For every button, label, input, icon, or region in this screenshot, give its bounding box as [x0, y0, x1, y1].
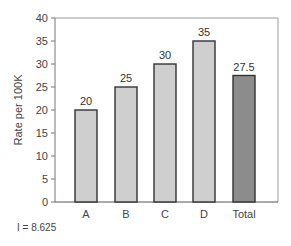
y-tick-label: 10: [36, 150, 48, 162]
bar-d: [193, 41, 215, 202]
bar-chart: 0510152025303540Rate per 100K20A25B30C35…: [0, 0, 291, 246]
y-axis-label: Rate per 100K: [12, 74, 24, 146]
y-tick-label: 15: [36, 127, 48, 139]
x-tick-label: C: [161, 208, 169, 220]
y-tick-label: 35: [36, 35, 48, 47]
data-label: 35: [198, 26, 210, 38]
data-label: 27.5: [233, 61, 254, 73]
data-label: 25: [120, 72, 132, 84]
bar-a: [75, 110, 97, 202]
y-tick-label: 40: [36, 12, 48, 24]
y-tick-label: 25: [36, 81, 48, 93]
footnote: I = 8.625: [17, 222, 56, 233]
bar-c: [154, 64, 176, 202]
y-tick-label: 30: [36, 58, 48, 70]
bar-b: [115, 87, 137, 202]
data-label: 20: [80, 95, 92, 107]
x-tick-label: Total: [232, 208, 255, 220]
x-tick-label: D: [200, 208, 208, 220]
x-tick-label: B: [122, 208, 129, 220]
x-tick-label: A: [82, 208, 90, 220]
y-tick-label: 0: [42, 196, 48, 208]
plot-area: 0510152025303540Rate per 100K20A25B30C35…: [12, 12, 278, 220]
data-label: 30: [159, 49, 171, 61]
y-tick-label: 5: [42, 173, 48, 185]
y-tick-label: 20: [36, 104, 48, 116]
bar-total: [233, 76, 255, 203]
